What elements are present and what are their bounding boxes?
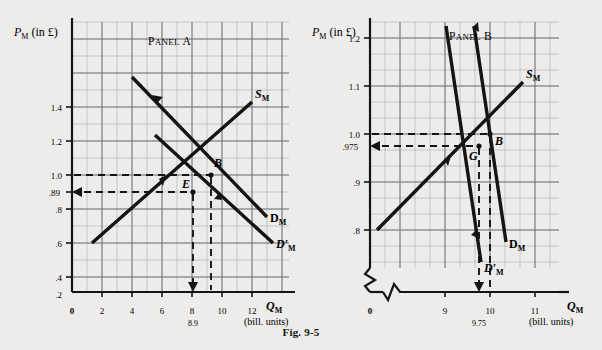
panel-a-x-tick-3: 6 (160, 306, 165, 316)
panel-b-y-tick-2: 1.1 (349, 82, 360, 92)
panel-a-y-tick-5: .6 (55, 239, 62, 249)
panel-a-x-tick-1: 2 (100, 306, 105, 316)
panel-a-y-tick-1: 1.4 (51, 103, 63, 113)
panel-a-x-tick-6: 12 (248, 306, 257, 316)
panel-a-point-e-label: E (181, 177, 190, 191)
panel-a-title: PANEL A (148, 35, 191, 47)
panel-a-y-tick-4: .8 (55, 205, 62, 215)
panel-a-x-tick-0: 0 (70, 306, 75, 316)
panel-a-background (0, 0, 301, 330)
panel-b-background (301, 0, 602, 330)
panel-a-point-b-label: B (213, 156, 222, 170)
figure-container: PANEL A PM (in £) 1.4 1.2 1.0 .89 .8 .6 … (0, 0, 602, 350)
panel-b: PANEL B PM (in £) 1.2 1.1 1.0 .975 .9 .8… (301, 0, 602, 330)
panel-b-y-tick-4: .9 (353, 178, 360, 188)
panel-a-x-tick-5: 10 (218, 306, 228, 316)
panel-b-x-tick-0: 0 (368, 306, 373, 316)
panel-a-plot: PANEL A PM (in £) 1.4 1.2 1.0 .89 .8 .6 … (0, 0, 301, 330)
panel-b-title: PANEL B (449, 30, 492, 42)
panel-a-point-b-marker (208, 172, 213, 177)
panel-a: PANEL A PM (in £) 1.4 1.2 1.0 .89 .8 .6 … (0, 0, 301, 330)
panel-a-y-axis-label: PM (in £) (13, 25, 58, 41)
panel-b-y-tick-5: .8 (353, 226, 360, 236)
panel-b-y-tick-3: 1.0 (349, 130, 361, 140)
panel-b-x-tick-2: 10 (486, 306, 496, 316)
panel-b-point-b-label: B (494, 134, 503, 148)
panel-b-point-g-label: G (469, 149, 478, 163)
panel-b-plot: PANEL B PM (in £) 1.2 1.1 1.0 .975 .9 .8… (301, 0, 602, 330)
panel-a-y-tick-highlight: .89 (49, 188, 61, 198)
panel-a-point-e-marker (190, 189, 195, 194)
panel-a-x-tick-2: 4 (130, 306, 135, 316)
panel-b-y-tick-highlight: .975 (342, 142, 358, 152)
figure-caption: Fig. 9-5 (0, 326, 602, 338)
panel-b-point-b-marker (487, 131, 492, 136)
panel-b-y-tick-1: 1.2 (349, 34, 360, 44)
panel-a-y-tick-2: 1.2 (51, 137, 62, 147)
panel-a-y-tick-7: .2 (55, 290, 62, 300)
panel-a-y-tick-6: .4 (55, 273, 62, 283)
panel-a-x-tick-4: 8 (190, 306, 195, 316)
panel-b-x-tick-1: 9 (443, 306, 448, 316)
panel-b-x-tick-3: 11 (531, 306, 540, 316)
panel-a-y-tick-3: 1.0 (51, 171, 63, 181)
panel-b-point-g-marker (476, 143, 481, 148)
